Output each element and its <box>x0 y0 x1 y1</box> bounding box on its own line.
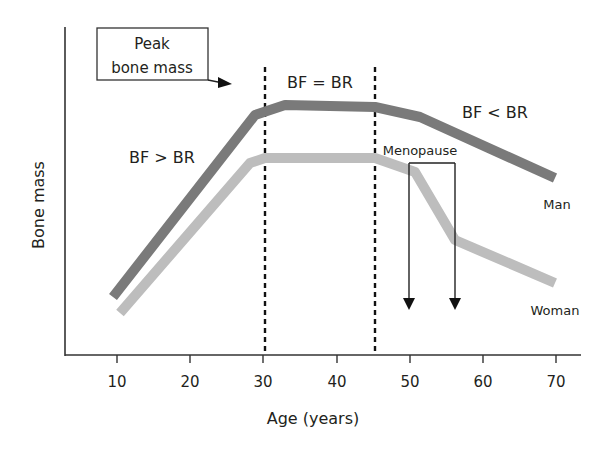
x-ticks <box>117 355 556 363</box>
x-tick-label: 40 <box>327 373 346 391</box>
series-line-man <box>113 105 555 297</box>
series-line-woman <box>120 158 555 313</box>
right-arrow-icon <box>218 77 232 88</box>
bone-mass-chart: 10 20 30 40 50 60 70 Age (years) Bone ma… <box>0 0 610 452</box>
peak-box-line2: bone mass <box>111 59 193 77</box>
series-label-woman: Woman <box>531 303 580 318</box>
region-label-resorption: BF < BR <box>462 103 528 122</box>
x-axis-title: Age (years) <box>267 409 360 428</box>
peak-box-line1: Peak <box>134 35 170 53</box>
x-tick-label: 30 <box>253 373 272 391</box>
y-axis-title: Bone mass <box>29 161 48 249</box>
menopause-label: Menopause <box>383 143 458 158</box>
x-tick-labels: 10 20 30 40 50 60 70 <box>107 373 565 391</box>
region-label-equal: BF = BR <box>287 73 353 92</box>
down-arrow-icon <box>403 298 415 310</box>
region-label-formation: BF > BR <box>129 148 195 167</box>
series-label-man: Man <box>543 197 570 212</box>
down-arrow-icon <box>449 298 461 310</box>
x-tick-label: 70 <box>546 373 565 391</box>
x-tick-label: 60 <box>473 373 492 391</box>
x-tick-label: 10 <box>107 373 126 391</box>
x-tick-label: 20 <box>180 373 199 391</box>
x-tick-label: 50 <box>400 373 419 391</box>
